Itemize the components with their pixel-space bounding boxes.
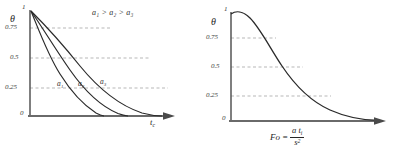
- left-y-axis-label: θ: [10, 14, 15, 24]
- curve-theta-fo: [231, 12, 374, 120]
- left-ytick-025: 0.25: [5, 84, 17, 91]
- formula-lhs: Fo: [270, 132, 280, 142]
- formula-denominator-exponent: 2: [297, 138, 300, 144]
- right-y-axis-label: θ: [211, 17, 216, 27]
- left-x-axis-label-sub: c: [152, 122, 155, 128]
- left-ytick-0: 0: [20, 110, 23, 117]
- right-ytick-1: 1: [224, 6, 227, 13]
- formula-fraction: a ti s2: [290, 126, 304, 147]
- x-axis-arrowhead: [374, 117, 386, 125]
- formula-numerator-a: a: [292, 125, 296, 135]
- figure-pair: 1 0.75 0.5 0.25 0 θ tc a₁ > a₂ > a₃ a₁ a…: [0, 0, 396, 150]
- x-axis-arrowhead: [163, 112, 175, 120]
- right-ytick-0: 0: [222, 115, 225, 122]
- right-ytick-05: 0.5: [211, 63, 219, 70]
- right-ytick-025: 0.25: [206, 92, 218, 99]
- left-annotation-ordering: a₁ > a₂ > a₃: [92, 9, 134, 17]
- curve-label-a3: a₃: [100, 78, 106, 86]
- left-x-axis-label: tc: [150, 118, 155, 128]
- left-chart-svg: [0, 0, 198, 150]
- left-ytick-1: 1: [22, 4, 25, 11]
- left-chart-panel: 1 0.75 0.5 0.25 0 θ tc a₁ > a₂ > a₃ a₁ a…: [0, 0, 198, 150]
- left-ytick-05: 0.5: [10, 54, 18, 61]
- formula-denominator: s2: [292, 138, 302, 147]
- left-ytick-075: 0.75: [5, 24, 17, 31]
- formula-equals: =: [282, 132, 288, 142]
- formula-numerator-t-sub: i: [301, 130, 303, 136]
- gridlines: [231, 38, 331, 96]
- right-chart-panel: 1 0.75 0.5 0.25 0 θ Fo = a ti s2: [198, 0, 396, 150]
- curve-label-a1: a₁: [57, 80, 63, 88]
- right-x-axis-formula: Fo = a ti s2: [270, 127, 304, 148]
- curve-label-a2: a₂: [78, 80, 84, 88]
- formula-numerator: a ti: [290, 126, 304, 137]
- right-ytick-075: 0.75: [206, 34, 218, 41]
